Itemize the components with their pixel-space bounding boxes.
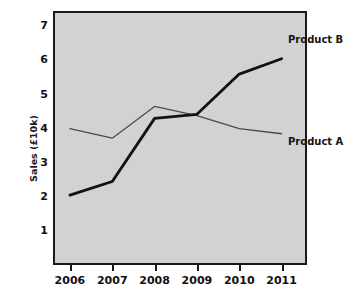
y-tick-label: 6	[32, 53, 48, 66]
x-tick-mark	[197, 265, 199, 271]
x-tick-mark	[70, 265, 72, 271]
y-tick-label: 3	[32, 156, 48, 169]
x-tick-label: 2007	[90, 274, 134, 287]
x-tick-mark	[239, 265, 241, 271]
x-tick-mark	[112, 265, 114, 271]
x-tick-mark	[155, 265, 157, 271]
y-tick-label: 4	[32, 122, 48, 135]
line-chart: Sales (£10k) 1234567 2006200720082009201…	[0, 0, 352, 297]
series-label-product-b: Product B	[288, 34, 343, 45]
x-tick-mark	[282, 265, 284, 271]
series-line-product-b	[70, 59, 282, 195]
x-tick-label: 2008	[133, 274, 177, 287]
y-tick-label: 5	[32, 88, 48, 101]
y-tick-label: 2	[32, 190, 48, 203]
y-tick-label: 1	[32, 224, 48, 237]
y-tick-label: 7	[32, 19, 48, 32]
x-tick-label: 2006	[48, 274, 92, 287]
series-line-product-a	[70, 106, 282, 138]
x-tick-label: 2009	[175, 274, 219, 287]
y-axis-tick-labels: 1234567	[30, 0, 48, 297]
plot-lines	[53, 11, 307, 265]
x-tick-label: 2011	[260, 274, 304, 287]
series-label-product-a: Product A	[288, 136, 343, 147]
x-tick-label: 2010	[217, 274, 261, 287]
